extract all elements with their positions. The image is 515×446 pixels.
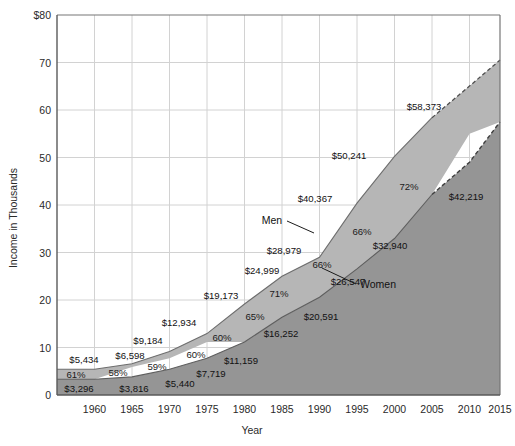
ratio-label-1980: 60% (212, 332, 232, 343)
women-label-1980: $11,159 (224, 355, 258, 366)
men-label-2005: $58,373 (407, 101, 442, 112)
women-label-1970: $5,440 (165, 378, 194, 389)
ratio-label-2005: 72% (399, 181, 419, 192)
y-tick-40: 40 (39, 199, 51, 211)
y-tick-0: 0 (45, 389, 51, 401)
y-tick-50: 50 (39, 152, 51, 164)
x-tick-1985: 1985 (270, 403, 294, 415)
men-label-1975: $12,934 (162, 317, 197, 328)
women-label-1985: $16,252 (264, 328, 299, 339)
x-tick-1980: 1980 (233, 403, 257, 415)
women-label-1965: $3,816 (119, 383, 148, 394)
ratio-label-1970: 59% (147, 361, 167, 372)
men-label-1985: $24,999 (245, 265, 280, 276)
women-series-label: Women (360, 278, 396, 290)
women-label-1975: $7,719 (196, 368, 225, 379)
y-tick-60: 60 (39, 104, 51, 116)
x-tick-1965: 1965 (120, 403, 144, 415)
x-tick-1970: 1970 (158, 403, 182, 415)
x-tick-1960: 1960 (83, 403, 107, 415)
women-label-1960: $3,296 (64, 383, 93, 394)
women-label-2000: $32,940 (373, 240, 408, 251)
y-axis-title: Income in Thousands (7, 168, 19, 268)
ratio-label-1965: 58% (108, 367, 128, 378)
men-series-label: Men (262, 214, 283, 226)
men-label-1970: $9,184 (133, 335, 163, 346)
x-tick-2015: 2015 (488, 403, 512, 415)
women-label-1990: $20,591 (304, 311, 339, 322)
x-axis-title: Year (241, 424, 263, 436)
men-label-1960: $5,434 (69, 354, 99, 365)
men-label-2000: $50,241 (332, 150, 367, 161)
x-tick-2005: 2005 (420, 403, 444, 415)
men-label-1965: $6,598 (115, 350, 144, 361)
x-tick-1990: 1990 (308, 403, 332, 415)
y-tick-20: 20 (39, 294, 51, 306)
ratio-label-1990: 71% (269, 288, 289, 299)
men-label-1995: $40,367 (298, 193, 333, 204)
chart-canvas: $80 70 60 50 40 30 20 10 0 1960 1965 197… (0, 0, 515, 446)
x-tick-2000: 2000 (383, 403, 407, 415)
men-label-1990: $28,979 (267, 245, 302, 256)
women-label-2005: $42,219 (449, 191, 484, 202)
ratio-label-2000: 66% (352, 226, 372, 237)
ratio-label-1975: 60% (186, 349, 206, 360)
x-tick-1975: 1975 (195, 403, 219, 415)
y-tick-30: 30 (39, 247, 51, 259)
x-tick-2010: 2010 (458, 403, 482, 415)
income-gap-area-chart: $80 70 60 50 40 30 20 10 0 1960 1965 197… (0, 0, 515, 446)
x-tick-1995: 1995 (345, 403, 369, 415)
ratio-label-1985: 65% (245, 311, 265, 322)
ratio-label-1960: 61% (66, 369, 86, 380)
men-label-1980: $19,173 (204, 290, 239, 301)
y-tick-80: $80 (33, 9, 51, 21)
y-tick-70: 70 (39, 57, 51, 69)
y-tick-10: 10 (39, 342, 51, 354)
